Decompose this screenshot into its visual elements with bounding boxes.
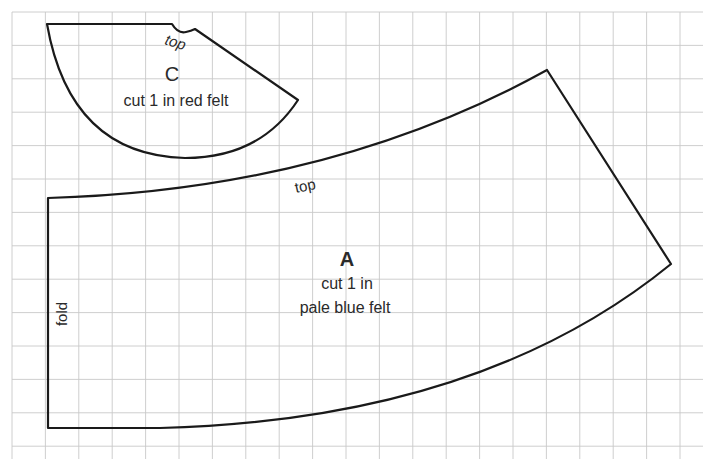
piece-a-instruction-line2: pale blue felt [300, 299, 391, 316]
piece-c-instruction: cut 1 in red felt [124, 92, 230, 109]
graph-paper-grid [12, 12, 703, 459]
piece-c-edge-label: top [163, 31, 188, 54]
pattern-piece-c: top C cut 1 in red felt [47, 24, 298, 158]
piece-a-outline [48, 70, 671, 428]
piece-a-letter: A [340, 248, 354, 270]
pattern-piece-a: top A cut 1 in pale blue felt fold [48, 70, 671, 428]
piece-a-fold-label: fold [53, 302, 70, 326]
piece-c-letter: C [165, 63, 179, 85]
piece-a-edge-label: top [293, 175, 317, 196]
piece-a-instruction-line1: cut 1 in [321, 275, 373, 292]
sewing-pattern-sheet: top C cut 1 in red felt top A cut 1 in p… [0, 0, 703, 468]
